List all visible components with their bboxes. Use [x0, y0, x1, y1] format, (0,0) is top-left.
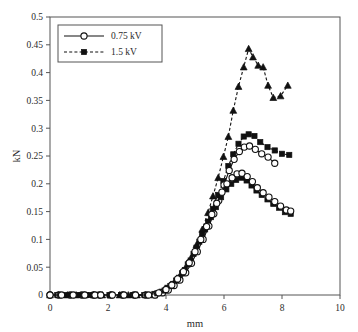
y-tick-label: 0.3 — [31, 124, 43, 134]
series-0 — [47, 45, 292, 298]
legend-label-0: 0.75 kV — [111, 31, 142, 41]
y-tick-label: 0 — [38, 290, 43, 300]
series-line — [50, 146, 275, 295]
data-point-open-circle — [146, 292, 152, 298]
data-point-open-circle — [175, 276, 181, 282]
x-tick-label: 0 — [48, 303, 53, 313]
y-tick-label: 0.5 — [31, 12, 43, 22]
x-tick-label: 4 — [164, 303, 169, 313]
chart-figure: 00.050.10.150.20.250.30.350.40.450.50246… — [0, 0, 358, 332]
series-line — [50, 178, 291, 295]
data-point-open-circle — [272, 198, 278, 204]
y-tick-label: 0.25 — [26, 151, 43, 161]
data-point-open-circle — [47, 292, 53, 298]
y-tick-label: 0.15 — [26, 207, 43, 217]
data-point-filled-triangle — [230, 107, 237, 113]
x-tick-label: 6 — [222, 303, 227, 313]
data-point-filled-square — [258, 140, 263, 145]
series-3 — [47, 175, 293, 298]
x-tick-label: 2 — [106, 303, 111, 313]
data-point-filled-square — [272, 148, 277, 153]
data-point-open-circle — [186, 260, 192, 266]
y-tick-label: 0.05 — [26, 263, 43, 273]
data-point-open-circle — [254, 185, 260, 191]
data-point-filled-square — [287, 152, 292, 157]
data-point-filled-triangle — [270, 94, 277, 100]
data-point-open-circle — [70, 292, 76, 298]
data-point-open-circle — [204, 224, 210, 230]
data-point-filled-triangle — [277, 93, 284, 99]
data-point-open-circle — [226, 167, 232, 173]
y-tick-label: 0.35 — [26, 96, 43, 106]
data-point-open-circle — [224, 181, 230, 187]
data-point-open-circle — [265, 154, 271, 160]
line-chart: 00.050.10.150.20.250.30.350.40.450.50246… — [0, 0, 358, 332]
series-4 — [47, 170, 294, 298]
data-point-open-circle — [156, 290, 162, 296]
data-point-filled-square — [81, 49, 86, 54]
data-point-filled-square — [236, 141, 241, 146]
y-tick-label: 0.1 — [31, 235, 43, 245]
data-point-open-circle — [82, 292, 88, 298]
data-point-open-circle — [288, 208, 294, 214]
legend-box — [58, 25, 162, 62]
data-point-open-circle — [209, 211, 215, 217]
data-point-open-circle — [244, 173, 250, 179]
y-axis-title: kN — [11, 149, 22, 162]
data-point-open-circle — [214, 200, 220, 206]
data-point-open-circle — [180, 269, 186, 275]
data-point-filled-triangle — [245, 45, 252, 51]
data-point-filled-square — [241, 134, 246, 139]
data-point-open-circle — [266, 194, 272, 200]
data-point-open-circle — [163, 286, 169, 292]
data-point-filled-triangle — [265, 82, 272, 88]
data-point-filled-triangle — [240, 64, 247, 70]
data-point-open-circle — [219, 189, 225, 195]
data-point-open-circle — [98, 292, 104, 298]
data-point-open-circle — [198, 236, 204, 242]
data-point-open-circle — [259, 151, 265, 157]
data-point-open-circle — [249, 178, 255, 184]
data-point-open-circle — [169, 282, 175, 288]
data-point-filled-triangle — [250, 54, 257, 60]
data-point-filled-triangle — [225, 133, 232, 139]
data-point-open-circle — [192, 249, 198, 255]
series-line — [50, 49, 288, 295]
data-point-open-circle — [272, 160, 278, 166]
series-1 — [47, 132, 291, 298]
data-point-open-circle — [121, 292, 127, 298]
data-point-filled-triangle — [220, 153, 227, 159]
series-2 — [47, 143, 278, 298]
data-point-filled-square — [279, 151, 284, 156]
data-point-open-circle — [260, 190, 266, 196]
data-point-open-circle — [109, 292, 115, 298]
data-point-filled-triangle — [255, 62, 262, 68]
x-tick-label: 10 — [335, 303, 345, 313]
series-line — [50, 134, 289, 295]
data-point-open-circle — [81, 33, 87, 39]
legend-label-1: 1.5 kV — [111, 47, 137, 57]
x-axis-title: mm — [187, 318, 203, 329]
y-tick-label: 0.2 — [31, 179, 43, 189]
data-point-filled-square — [252, 133, 257, 138]
data-point-open-circle — [277, 203, 283, 209]
data-point-filled-triangle — [235, 83, 242, 89]
y-tick-label: 0.4 — [31, 68, 43, 78]
data-point-open-circle — [246, 143, 252, 149]
x-tick-label: 8 — [280, 303, 285, 313]
data-point-open-circle — [231, 156, 237, 162]
data-point-open-circle — [59, 292, 65, 298]
data-point-open-circle — [132, 292, 138, 298]
data-point-filled-square — [265, 145, 270, 150]
data-point-open-circle — [252, 146, 258, 152]
y-tick-label: 0.45 — [26, 40, 43, 50]
data-point-filled-square — [246, 132, 251, 137]
data-point-filled-triangle — [284, 82, 291, 88]
